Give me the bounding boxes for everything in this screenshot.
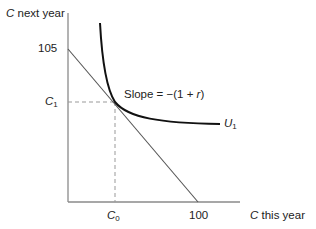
- c0-label: C0: [107, 210, 120, 223]
- x-intercept-label: 100: [189, 210, 208, 222]
- slope-label: Slope = −(1 + r): [124, 89, 204, 101]
- x-axis-label: C this year: [250, 210, 305, 222]
- budget-line: [68, 49, 198, 202]
- u1-curve-label: U1: [224, 118, 237, 131]
- y-intercept-label: 105: [38, 43, 57, 55]
- diagram-canvas: [0, 0, 316, 229]
- c1-label: C1: [45, 96, 58, 109]
- indifference-curve-u1: [100, 23, 220, 124]
- y-axis-label: C next year: [6, 8, 65, 20]
